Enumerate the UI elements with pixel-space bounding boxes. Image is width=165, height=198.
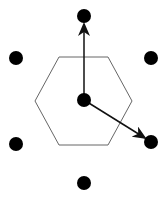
diagram-canvas (0, 0, 165, 198)
lattice-point-upper-right (144, 51, 158, 65)
lattice-point-top (77, 9, 91, 23)
lattice-point-lower-right (144, 135, 158, 149)
lattice-point-bottom (77, 176, 91, 190)
lattice-diagram (0, 0, 165, 198)
lattice-point-lower-left (9, 137, 23, 151)
center-lattice-point (77, 93, 91, 107)
lattice-vectors (84, 24, 145, 138)
lattice-point-upper-left (9, 51, 23, 65)
